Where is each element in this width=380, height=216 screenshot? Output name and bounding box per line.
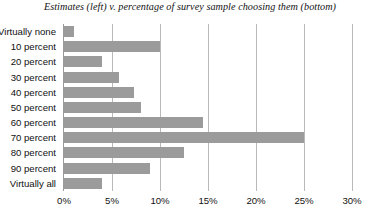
y-axis-labels: Virtually none10 percent20 percent30 per…: [0, 24, 60, 191]
y-axis-tick-label: Virtually none: [0, 24, 56, 39]
bar-row: [64, 24, 352, 39]
y-axis-tick-label: 80 percent: [0, 145, 56, 160]
y-axis-tick-label: 20 percent: [0, 54, 56, 69]
bar: [64, 26, 74, 37]
bar: [64, 132, 304, 143]
bar: [64, 102, 141, 113]
bar: [64, 163, 150, 174]
plot-area: [64, 24, 352, 191]
bar-row: [64, 145, 352, 160]
bar-chart: Estimates (left) v. percentage of survey…: [0, 0, 380, 216]
chart-title: Estimates (left) v. percentage of survey…: [0, 1, 380, 12]
y-axis-tick-label: Virtually all: [0, 176, 56, 191]
bar: [64, 56, 102, 67]
x-axis-labels: 0%5%10%15%20%25%30%: [0, 194, 380, 210]
bar: [64, 178, 102, 189]
gridline: [352, 24, 353, 191]
bar-row: [64, 70, 352, 85]
y-axis-tick-label: 60 percent: [0, 115, 56, 130]
bar: [64, 117, 203, 128]
y-axis-tick-label: 40 percent: [0, 85, 56, 100]
bar-row: [64, 115, 352, 130]
bar-row: [64, 85, 352, 100]
y-axis-tick-label: 10 percent: [0, 39, 56, 54]
bar-row: [64, 100, 352, 115]
y-axis-tick-label: 50 percent: [0, 100, 56, 115]
bar-row: [64, 161, 352, 176]
bar-row: [64, 130, 352, 145]
y-axis-tick-label: 70 percent: [0, 130, 56, 145]
bar: [64, 147, 184, 158]
bar-row: [64, 176, 352, 191]
bar-row: [64, 39, 352, 54]
y-axis-tick-label: 90 percent: [0, 161, 56, 176]
x-axis-tick-label: 30%: [322, 194, 380, 208]
bar-row: [64, 54, 352, 69]
y-axis-tick-label: 30 percent: [0, 70, 56, 85]
bar: [64, 87, 134, 98]
bar: [64, 41, 160, 52]
bar: [64, 72, 119, 83]
